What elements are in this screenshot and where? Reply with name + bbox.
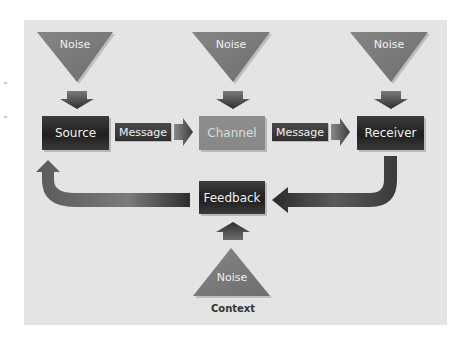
source-label: Source bbox=[55, 126, 96, 140]
context-label: Context bbox=[205, 303, 261, 314]
feedback-label: Feedback bbox=[203, 191, 260, 205]
message-arrow-1 bbox=[174, 118, 193, 146]
noise-label-context: Noise bbox=[202, 271, 262, 284]
feedback-arrow-to-source bbox=[36, 160, 190, 207]
down-arrow-receiver bbox=[374, 91, 408, 109]
source-node: Source bbox=[42, 116, 109, 150]
noise-label-channel: Noise bbox=[201, 38, 261, 51]
receiver-label: Receiver bbox=[365, 126, 417, 140]
down-arrow-source bbox=[60, 91, 94, 109]
down-arrow-channel bbox=[216, 91, 250, 109]
feedback-node: Feedback bbox=[199, 181, 265, 214]
up-arrow-feedback bbox=[216, 222, 250, 240]
noise-label-receiver: Noise bbox=[359, 38, 419, 51]
feedback-arrow-from-receiver bbox=[272, 156, 397, 213]
channel-label: Channel bbox=[207, 126, 256, 140]
message-arrow-2 bbox=[331, 118, 350, 146]
noise-label-source: Noise bbox=[45, 38, 105, 51]
receiver-node: Receiver bbox=[357, 116, 424, 150]
message-label-2: Message bbox=[272, 123, 328, 141]
channel-node: Channel bbox=[199, 116, 265, 150]
message-label-1: Message bbox=[115, 123, 171, 141]
